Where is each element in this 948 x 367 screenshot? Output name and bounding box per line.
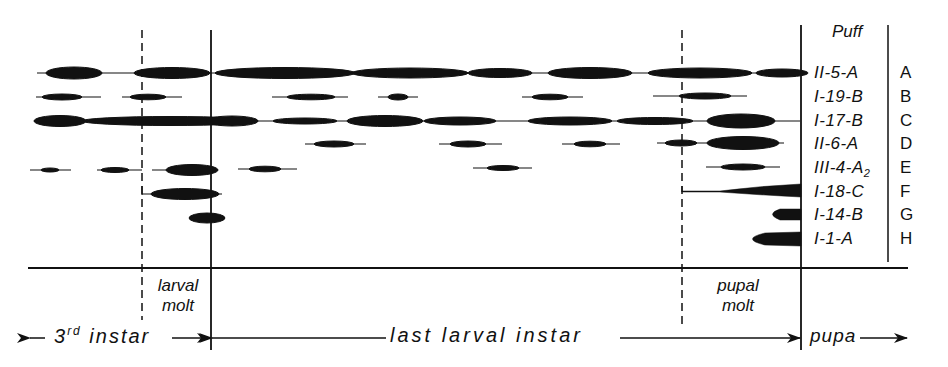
puff-name-d: II-6-A [814,134,859,154]
puff-row-h-bands [753,232,802,246]
puff-name-e: III-4-A2 [814,158,870,179]
larval-molt-label: larval molt [150,276,206,316]
puff-letter-b: B [900,87,911,107]
puff-column-header: Puff [832,22,862,42]
puff-letter-d: D [900,134,912,154]
puff-row-d-bands [305,137,784,150]
larval-molt-line2: molt [150,296,206,316]
puff-row-c-bands [34,114,800,128]
puff-letter-g: G [900,205,913,225]
puff-letter-a: A [900,63,911,83]
pupal-molt-label: pupal molt [708,276,768,316]
third-instar-number: 3 [54,325,67,347]
puff-row-a-bands [37,67,808,79]
third-instar-ordinal: rd [67,324,82,338]
puff-letter-c: C [900,111,912,131]
puff-row-b-bands [36,93,747,100]
puff-name-g: I-14-B [814,205,863,225]
puff-name-a: II-5-A [814,63,859,83]
puff-name-h: I-1-A [814,229,853,249]
puff-letter-h: H [900,229,912,249]
puff-letter-e: E [900,158,911,178]
pupal-molt-line2: molt [708,296,768,316]
pupal-molt-line1: pupal [708,276,768,296]
pupa-label: pupa [806,325,860,347]
puff-timeline-diagram [0,0,948,367]
third-instar-text: instar [82,325,150,347]
puff-letter-f: F [900,182,910,202]
puff-name-e-subscript: 2 [864,167,871,179]
larval-molt-line1: larval [150,276,206,296]
puff-name-b: I-19-B [814,87,863,107]
puff-row-f-bands [142,184,801,200]
puff-name-c: I-17-B [814,111,863,131]
puff-name-f: I-18-C [814,182,864,202]
puff-row-g-bands [189,209,801,223]
puff-name-e-text: III-4-A [814,158,864,177]
last-larval-instar-label: last larval instar [386,324,587,347]
third-instar-label: 3rd instar [50,324,154,348]
